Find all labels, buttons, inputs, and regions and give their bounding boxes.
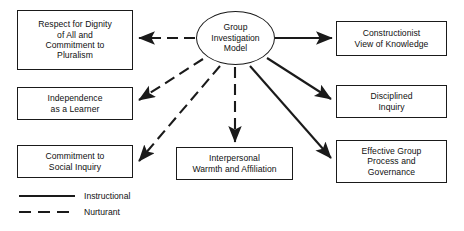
node-label: Constructionist View of Knowledge [351, 28, 433, 49]
node-effective-group-process[interactable]: Effective Group Process and Governance [336, 140, 447, 183]
node-independence-as-a-learner[interactable]: Independence as a Learner [17, 87, 133, 120]
node-disciplined-inquiry[interactable]: Disciplined Inquiry [336, 85, 447, 118]
node-label: Independence as a Learner [43, 93, 106, 114]
node-commitment-to-social-inquiry[interactable]: Commitment to Social Inquiry [17, 145, 133, 178]
node-label: Effective Group Process and Governance [358, 146, 426, 177]
legend-label: Nurturant [84, 207, 120, 217]
node-respect-for-dignity[interactable]: Respect for Dignity of All and Commitmen… [17, 10, 133, 70]
legend-label: Instructional [84, 191, 130, 201]
node-label: Group Investigation Model [211, 22, 259, 53]
solid-line-icon [19, 191, 75, 201]
node-label: Commitment to Social Inquiry [42, 151, 109, 172]
dashed-line-icon [19, 207, 75, 217]
legend-item-instructional: Instructional [19, 190, 130, 202]
node-label: Interpersonal Warmth and Affiliation [188, 153, 280, 174]
arrow-instructional-disciplined-inquiry [267, 58, 331, 99]
legend: Instructional Nurturant [19, 190, 199, 224]
node-label: Respect for Dignity of All and Commitmen… [34, 19, 116, 61]
legend-item-nurturant: Nurturant [19, 206, 120, 218]
group-investigation-diagram: Group Investigation Model Respect for Di… [0, 0, 464, 231]
arrow-nurturant-independence-as-a-learner [139, 59, 203, 100]
node-label: Disciplined Inquiry [366, 91, 416, 112]
node-group-investigation-model[interactable]: Group Investigation Model [196, 11, 275, 65]
arrow-instructional-effective-group-process [250, 66, 331, 158]
node-interpersonal-warmth[interactable]: Interpersonal Warmth and Affiliation [176, 147, 293, 180]
node-constructionist-view[interactable]: Constructionist View of Knowledge [336, 21, 447, 56]
